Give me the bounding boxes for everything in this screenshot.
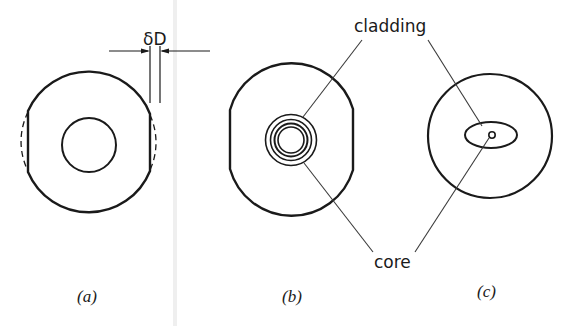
panel-a-outer-boundary [28, 72, 150, 213]
panel-c-cladding-ellipse [465, 122, 517, 148]
fiber-cross-section-figure: δD (a) (b) (c) cladding core [0, 0, 567, 326]
panel-b-caption: (b) [282, 287, 302, 306]
page-crease [173, 0, 177, 326]
core-leader-to-b [304, 163, 373, 252]
panel-c-outer-circle [428, 74, 552, 198]
panel-a: δD (a) [21, 29, 210, 306]
panel-b-core-circle [278, 127, 304, 153]
panel-b-outer-boundary [230, 63, 353, 216]
core-label: core [374, 252, 411, 272]
panel-c-caption: (c) [477, 282, 496, 301]
panel-b-cladding-ring-middle [271, 120, 312, 161]
panel-c-core-circle [489, 132, 495, 138]
panel-b-cladding-ring-outer [266, 115, 317, 166]
core-leader-to-c [415, 138, 489, 252]
delta-d-arrow-right-icon [141, 49, 150, 54]
panel-a-caption: (a) [77, 287, 97, 306]
cladding-leader-to-b [303, 40, 362, 117]
panel-b-cladding-ring-inner [275, 124, 308, 157]
panel-b: (b) [230, 63, 353, 306]
panel-a-core-circle [62, 118, 116, 172]
cladding-leader-to-c [428, 40, 482, 126]
panel-c: (c) [428, 74, 552, 301]
delta-d-label: δD [143, 29, 167, 49]
callout-labels: cladding core [303, 16, 489, 272]
delta-d-arrow-left-icon [160, 49, 169, 54]
cladding-label: cladding [354, 16, 426, 36]
